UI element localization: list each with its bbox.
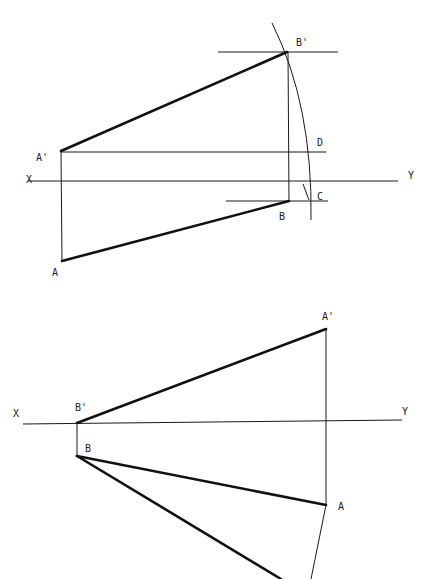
projector-b [288,52,289,201]
top-figure: B' A' D X Y C B A [26,23,414,278]
projector-a [61,151,62,261]
elevation-line-b-prime-a-prime [77,329,326,423]
label-x: X [26,174,32,185]
true-length-plan-line [77,456,281,579]
label-b-prime-bottom: B' [75,402,87,413]
label-a-bottom: A [338,501,344,512]
label-b-prime: B' [296,37,308,48]
plan-line-a-b [62,201,289,261]
label-a: A [52,267,58,278]
bottom-figure: A' X B' Y B A [13,311,408,579]
label-b: B [279,211,285,222]
label-x-bottom: X [13,408,19,419]
label-a-prime-bottom: A' [322,311,334,322]
elevation-line-a-prime-b-prime [61,52,287,151]
label-d: D [317,137,323,148]
plan-line-b-a [77,456,326,505]
label-a-prime: A' [36,152,48,163]
label-b-bottom: B [85,443,91,454]
label-y-bottom: Y [402,406,408,417]
arc-tick-mark [303,184,309,200]
projection-diagram: B' A' D X Y C B A A' X B' Y B A [0,0,432,579]
label-y: Y [408,170,414,181]
label-c: C [317,191,323,202]
a-extension-line [311,505,326,579]
